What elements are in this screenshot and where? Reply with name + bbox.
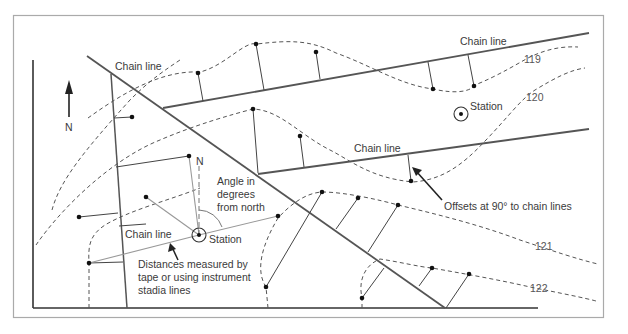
chain-line-vertical [111, 74, 127, 308]
contour-120 [36, 68, 585, 245]
chain-line-middle [258, 129, 589, 174]
label-chain-line-middle: Chain line [354, 142, 401, 154]
contour-label-121: 121 [535, 240, 553, 252]
label-distance-note-2: tape or using instrument [138, 271, 251, 283]
label-angle-note-1: Angle in [217, 175, 255, 187]
label-distance-note-3: stadia lines [138, 284, 191, 296]
station-icon-right [454, 107, 468, 121]
label-distance-note-1: Distances measured by [138, 258, 248, 270]
label-station-north: N [196, 155, 204, 167]
offsets-diagonal [266, 192, 469, 308]
label-angle-note-3: from north [217, 201, 265, 213]
label-station-center: Station [209, 233, 242, 245]
diagram-border [13, 15, 604, 157]
contour-label-122: 122 [530, 282, 548, 294]
north-label: N [65, 121, 73, 133]
north-arrow-icon [65, 80, 73, 117]
label-offsets-note: Offsets at 90° to chain lines [444, 200, 572, 212]
frame [13, 15, 604, 157]
label-chain-line-top-left: Chain line [115, 60, 162, 72]
label-angle-note-2: degrees [217, 188, 255, 200]
contour-119 [88, 42, 578, 118]
figure-border [14, 16, 604, 157]
contour-label-119: 119 [524, 53, 541, 65]
picture-frame [14, 16, 604, 157]
label-chain-line-top-right: Chain line [460, 35, 507, 47]
label-chain-line-lower-left: Chain line [125, 228, 172, 240]
label-station-right: Station [470, 100, 503, 112]
contour-left [52, 60, 180, 210]
survey-diagram: N [0, 0, 628, 334]
contour-122 [361, 259, 596, 308]
offsets-arrow-icon [412, 167, 442, 200]
outer-frame [13, 15, 604, 157]
contour-label-120: 120 [526, 91, 544, 103]
